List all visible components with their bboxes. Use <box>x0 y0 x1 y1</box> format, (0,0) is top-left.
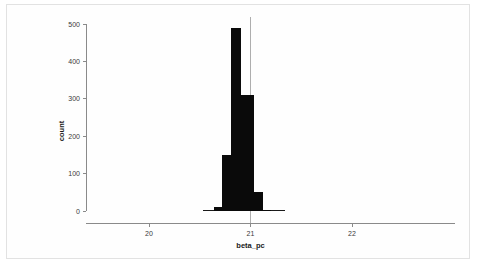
y-tick-label-100: 100 <box>68 170 80 177</box>
x-axis-ticks <box>149 223 352 227</box>
histogram-bar <box>231 28 241 211</box>
histogram-bar <box>214 207 223 212</box>
y-axis-title: count <box>57 120 66 141</box>
x-tick-label-20: 20 <box>145 230 153 237</box>
histogram-bar <box>222 155 231 211</box>
histogram-bar <box>263 210 271 212</box>
histogram-figure: 0 100 200 300 400 500 count 20 21 22 bet… <box>0 0 479 267</box>
y-tick-label-200: 200 <box>68 133 80 140</box>
histogram-bars <box>214 28 272 211</box>
histogram-bar <box>254 192 264 211</box>
y-tick-label-0: 0 <box>76 208 80 215</box>
x-axis-title: beta_pc <box>236 241 264 250</box>
y-tick-label-500: 500 <box>68 21 80 28</box>
y-tick-label-300: 300 <box>68 95 80 102</box>
x-tick-label-21: 21 <box>247 230 255 237</box>
x-tick-label-22: 22 <box>348 230 356 237</box>
histogram-bar <box>241 95 254 211</box>
histogram-plot: 0 100 200 300 400 500 count 20 21 22 bet… <box>0 0 479 267</box>
chart-screenshot: 0 100 200 300 400 500 count 20 21 22 bet… <box>0 0 479 267</box>
y-tick-label-400: 400 <box>68 58 80 65</box>
